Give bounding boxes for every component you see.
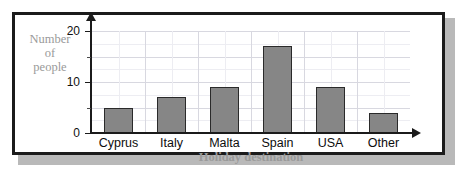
y-axis-tick-minor bbox=[87, 57, 91, 58]
x-axis-title: Holiday destination bbox=[92, 150, 410, 164]
gridline-vertical bbox=[198, 31, 199, 133]
gridline-vertical bbox=[357, 31, 358, 133]
y-axis-tick-label: 0 bbox=[56, 127, 80, 139]
bar-spain bbox=[263, 46, 291, 133]
y-axis-tick-minor bbox=[87, 108, 91, 109]
y-axis-tick bbox=[85, 82, 91, 83]
x-axis-label-malta: Malta bbox=[198, 136, 251, 150]
x-axis-label-other: Other bbox=[357, 136, 410, 150]
y-axis-tick-label: 10 bbox=[56, 76, 80, 88]
bar-malta bbox=[210, 87, 238, 133]
y-axis-title-line: Number bbox=[20, 32, 80, 46]
plot-area bbox=[92, 31, 410, 133]
y-axis-title: Numberofpeople bbox=[20, 32, 80, 74]
x-axis-arrow-icon bbox=[412, 128, 421, 138]
x-axis-label-cyprus: Cyprus bbox=[92, 136, 145, 150]
x-axis-label-usa: USA bbox=[304, 136, 357, 150]
y-axis-line bbox=[90, 19, 92, 134]
y-axis-title-line: people bbox=[20, 60, 80, 74]
y-axis-arrow-icon bbox=[86, 12, 96, 21]
x-axis-label-spain: Spain bbox=[251, 136, 304, 150]
y-axis-tick bbox=[85, 31, 91, 32]
bar-cyprus bbox=[104, 108, 132, 134]
bar-other bbox=[369, 113, 397, 133]
y-axis-title-line: of bbox=[20, 46, 80, 60]
bar-chart: 01020 CyprusItalyMaltaSpainUSAOther Numb… bbox=[0, 0, 461, 183]
gridline-vertical bbox=[304, 31, 305, 133]
figure-page: 01020 CyprusItalyMaltaSpainUSAOther Numb… bbox=[0, 0, 461, 183]
x-axis-line bbox=[90, 132, 414, 134]
x-axis-label-italy: Italy bbox=[145, 136, 198, 150]
y-axis-tick bbox=[85, 133, 91, 134]
gridline-vertical bbox=[251, 31, 252, 133]
bar-italy bbox=[157, 97, 185, 133]
gridline-vertical bbox=[145, 31, 146, 133]
bar-usa bbox=[316, 87, 344, 133]
